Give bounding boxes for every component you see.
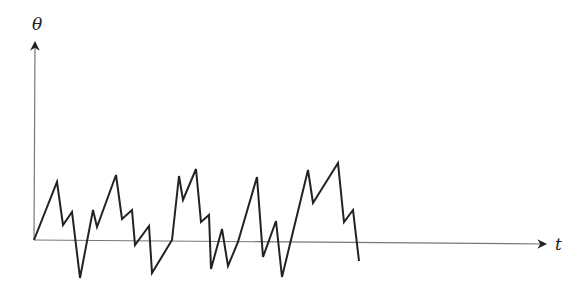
y-axis <box>34 42 35 240</box>
plot-canvas <box>0 0 588 296</box>
x-axis-label: t <box>555 234 562 254</box>
y-axis-label: θ <box>32 14 42 34</box>
theta-curve <box>34 163 359 278</box>
